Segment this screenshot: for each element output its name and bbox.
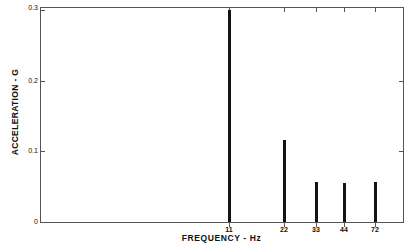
x-tick-label-72: 72 — [360, 226, 390, 233]
y-tick-label-0: 0 — [34, 218, 38, 225]
x-tick-label-44: 44 — [329, 226, 359, 233]
y-tick-mark-right-0.2 — [399, 81, 403, 82]
top-axis-line — [40, 7, 404, 8]
bar-11hz — [228, 10, 231, 222]
y-tick-label-0.1: 0.1 — [28, 147, 38, 154]
x-tick-mark-top-22 — [284, 8, 285, 12]
bar-22hz — [283, 140, 286, 222]
x-tick-label-33: 33 — [301, 226, 331, 233]
y-tick-label-0.2: 0.2 — [28, 77, 38, 84]
y-tick-mark-0 — [41, 222, 45, 223]
y-tick-label-0.3: 0.3 — [28, 4, 38, 11]
x-tick-mark-top-72 — [375, 8, 376, 12]
right-axis-line — [403, 7, 404, 223]
y-tick-mark-0.3 — [41, 10, 45, 11]
bar-44hz — [343, 183, 346, 222]
y-tick-mark-0.1 — [41, 151, 45, 152]
x-tick-mark-top-44 — [344, 8, 345, 12]
bar-72hz — [374, 182, 377, 222]
bar-33hz — [315, 182, 318, 222]
y-axis-line — [40, 7, 41, 223]
y-tick-mark-right-0.1 — [399, 151, 403, 152]
x-tick-label-11: 11 — [214, 226, 244, 233]
acceleration-frequency-chart: ACCELERATION - G FREQUENCY - Hz 0 0.1 0.… — [0, 0, 410, 249]
x-tick-mark-top-33 — [316, 8, 317, 12]
y-axis-title: ACCELERATION - G — [10, 47, 20, 177]
x-tick-label-22: 22 — [269, 226, 299, 233]
x-axis-title: FREQUENCY - Hz — [40, 233, 403, 243]
x-axis-line — [40, 222, 404, 223]
y-tick-mark-0.2 — [41, 81, 45, 82]
